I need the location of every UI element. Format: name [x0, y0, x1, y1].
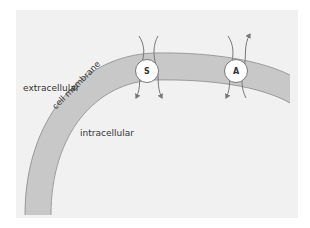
symporter-s: S: [135, 59, 159, 83]
transporter-a-label: A: [233, 67, 239, 76]
antiporter-a: A: [224, 59, 248, 83]
membrane-band: [25, 53, 290, 215]
transporter-s-label: S: [144, 67, 150, 76]
cell-membrane-diagram: [0, 0, 310, 228]
intracellular-label: intracellular: [80, 128, 134, 138]
